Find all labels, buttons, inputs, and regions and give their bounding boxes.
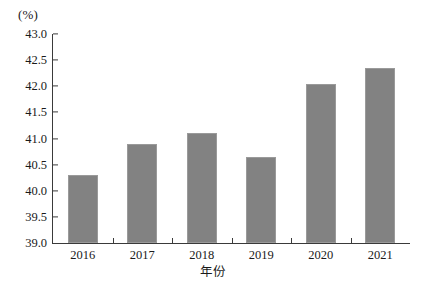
x-axis-tick-label: 2021 [368, 248, 393, 263]
x-axis-tick-label: 2019 [249, 248, 274, 263]
x-axis-tick-mark [351, 238, 352, 243]
bar [187, 133, 217, 243]
x-axis-tick-mark [232, 238, 233, 243]
y-axis-tick-label: 42.0 [25, 79, 53, 93]
x-axis-tick-mark [172, 238, 173, 243]
y-axis-tick-label: 41.0 [25, 132, 53, 146]
x-axis-title: 年份 [0, 264, 425, 279]
y-axis-tick-mark [53, 60, 58, 61]
bar [306, 84, 336, 243]
bar [365, 68, 395, 243]
y-axis-tick-label: 41.5 [25, 105, 53, 119]
bar-chart: (%) 43.042.542.041.541.040.540.039.539.0… [0, 0, 425, 290]
x-axis-tick-label: 2020 [308, 248, 333, 263]
x-axis-tick-label: 2016 [70, 248, 95, 263]
y-axis-tick-mark [53, 138, 58, 139]
bar [246, 157, 276, 243]
y-axis-tick-mark [53, 86, 58, 87]
y-axis-tick-label: 43.0 [25, 27, 53, 41]
x-axis-tick-mark [291, 238, 292, 243]
y-axis-tick-label: 39.5 [25, 210, 53, 224]
bar [127, 144, 157, 243]
y-axis-tick-mark [53, 33, 58, 34]
y-axis-unit-label: (%) [18, 8, 38, 22]
y-axis-tick-mark [53, 112, 58, 113]
y-axis-tick-label: 39.0 [25, 236, 53, 250]
x-axis-tick-label: 2018 [189, 248, 214, 263]
x-axis-tick-mark [113, 238, 114, 243]
plot-area: 43.042.542.041.541.040.540.039.539.0 201… [52, 34, 410, 244]
y-axis-tick-label: 42.5 [25, 53, 53, 67]
y-axis-tick-mark [53, 164, 58, 165]
y-axis-tick-mark [53, 216, 58, 217]
bar [68, 175, 98, 243]
y-axis-tick-mark [53, 190, 58, 191]
y-axis-tick-label: 40.5 [25, 158, 53, 172]
y-axis-tick-label: 40.0 [25, 184, 53, 198]
x-axis-tick-label: 2017 [130, 248, 155, 263]
